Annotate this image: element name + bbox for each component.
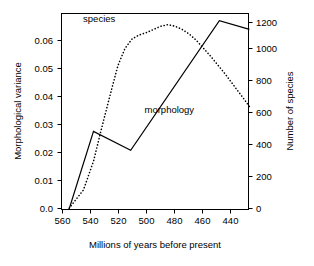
left-axis-ticks <box>58 41 62 209</box>
chart-figure: 0.0 0.01 0.02 0.03 0.04 0.05 0.06 0 200 … <box>0 0 314 266</box>
series-label-morphology: morphology <box>144 104 194 115</box>
x-axis-title: Millions of years before present <box>89 239 221 250</box>
bottom-tick-label-0: 560 <box>55 215 71 226</box>
right-tick-label-3: 600 <box>256 107 272 118</box>
bottom-axis-ticks <box>63 210 231 214</box>
left-tick-label-0: 0.0 <box>40 203 53 214</box>
chart-canvas: 0.0 0.01 0.02 0.03 0.04 0.05 0.06 0 200 … <box>0 0 314 266</box>
left-tick-label-2: 0.02 <box>35 147 54 158</box>
bottom-tick-label-2: 520 <box>111 215 127 226</box>
right-axis-ticks <box>249 23 253 209</box>
left-axis-tick-labels: 0.0 0.01 0.02 0.03 0.04 0.05 0.06 <box>35 35 54 214</box>
bottom-tick-label-3: 500 <box>139 215 155 226</box>
bottom-tick-label-1: 540 <box>83 215 99 226</box>
y-axis-title: Morphological variance <box>12 62 23 160</box>
bottom-axis-tick-labels: 560 540 520 500 480 460 440 <box>55 215 239 226</box>
series-label-species: species <box>83 13 115 24</box>
right-tick-label-1: 200 <box>256 171 272 182</box>
left-tick-label-6: 0.06 <box>35 35 54 46</box>
series-line-species <box>69 25 249 209</box>
left-tick-label-3: 0.03 <box>35 119 54 130</box>
left-tick-label-4: 0.04 <box>35 91 54 102</box>
right-axis-tick-labels: 0 200 400 600 800 1000 1200 <box>256 17 277 214</box>
left-tick-label-5: 0.05 <box>35 63 54 74</box>
right-tick-label-5: 1000 <box>256 43 277 54</box>
bottom-tick-label-6: 440 <box>223 215 239 226</box>
right-tick-label-4: 800 <box>256 75 272 86</box>
right-tick-label-6: 1200 <box>256 17 277 28</box>
right-tick-label-2: 400 <box>256 139 272 150</box>
left-tick-label-1: 0.01 <box>35 175 54 186</box>
bottom-tick-label-5: 460 <box>195 215 211 226</box>
right-tick-label-0: 0 <box>256 203 261 214</box>
series-line-morphology <box>69 21 249 209</box>
bottom-tick-label-4: 480 <box>167 215 183 226</box>
y2-axis-title: Number of species <box>284 71 295 150</box>
